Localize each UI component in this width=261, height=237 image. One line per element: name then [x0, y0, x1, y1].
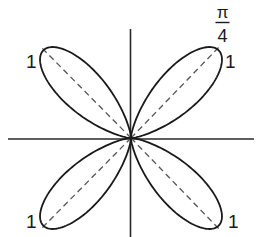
- label-radius-top-right: 1: [225, 51, 236, 72]
- petal-quadrant-1: [131, 47, 222, 138]
- label-radius-bottom-right: 1: [228, 211, 239, 232]
- angle-label-pi-over-4: π 4: [216, 3, 230, 46]
- angle-numerator: π: [217, 3, 229, 22]
- label-radius-top-left: 1: [26, 51, 37, 72]
- polar-rose-diagram: 1 1 1 1 π 4: [0, 0, 261, 237]
- label-radius-bottom-left: 1: [26, 211, 37, 232]
- angle-denominator: 4: [217, 26, 227, 46]
- petal-quadrant-4: [131, 138, 222, 229]
